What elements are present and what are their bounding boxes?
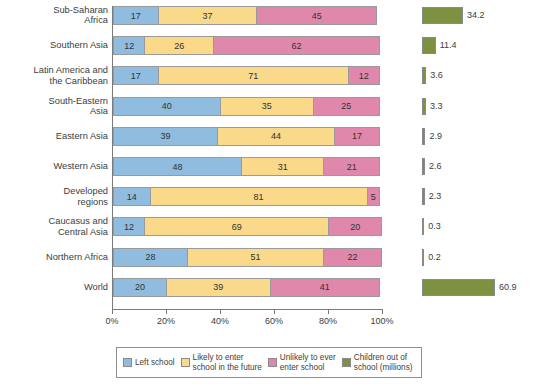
x-axis-tick-label: 0% bbox=[105, 316, 118, 326]
stacked-bar: 394417 bbox=[113, 127, 382, 146]
children-out-of-school-value: 34.2 bbox=[467, 10, 485, 20]
x-axis-tick-label: 20% bbox=[157, 316, 175, 326]
legend-swatch-unlikely-to-enter bbox=[268, 358, 277, 367]
x-axis-tick bbox=[274, 310, 275, 314]
children-out-of-school-value: 2.6 bbox=[429, 161, 442, 171]
stacked-bar: 483121 bbox=[113, 157, 382, 176]
stacked-bar: 122662 bbox=[113, 36, 382, 55]
category-label: Caucasus and Central Asia bbox=[0, 216, 108, 237]
bar-segment-value: 20 bbox=[350, 222, 360, 232]
children-out-of-school-value: 3.3 bbox=[430, 101, 443, 111]
bar-segment: 51 bbox=[187, 248, 324, 267]
category-label: South-Eastern Asia bbox=[0, 96, 108, 117]
category-label: Latin America and the Caribbean bbox=[0, 65, 108, 86]
bar-segment-value: 40 bbox=[162, 101, 172, 111]
bar-segment: 12 bbox=[348, 66, 380, 85]
x-axis-tick bbox=[382, 310, 383, 314]
stacked-bar: 177112 bbox=[113, 66, 382, 85]
chart-row: Latin America and the Caribbean1771123.6 bbox=[0, 66, 538, 85]
category-label: Western Asia bbox=[0, 161, 108, 171]
bar-segment: 5 bbox=[367, 187, 380, 206]
bar-segment: 71 bbox=[158, 66, 349, 85]
bar-segment: 41 bbox=[270, 278, 380, 297]
children-out-of-school-bar bbox=[422, 67, 426, 84]
bar-segment-value: 12 bbox=[124, 41, 134, 51]
legend-item: Left school bbox=[123, 358, 175, 367]
x-axis-tick bbox=[166, 310, 167, 314]
children-out-of-school-bar bbox=[422, 218, 424, 235]
bar-segment: 35 bbox=[220, 97, 314, 116]
x-axis-tick-label: 40% bbox=[211, 316, 229, 326]
bar-segment-value: 14 bbox=[127, 192, 137, 202]
children-out-of-school-bar bbox=[422, 37, 436, 54]
category-label: Northern Africa bbox=[0, 252, 108, 262]
chart-row: Sub-Saharan Africa17374534.2 bbox=[0, 6, 538, 25]
category-label: Developed regions bbox=[0, 186, 108, 207]
stacked-bar: 403525 bbox=[113, 97, 382, 116]
bar-segment-value: 45 bbox=[312, 11, 322, 21]
legend-swatch-likely-to-enter bbox=[181, 358, 190, 367]
bar-segment-value: 25 bbox=[341, 101, 351, 111]
stacked-bar: 203941 bbox=[113, 278, 382, 297]
bar-segment-value: 31 bbox=[278, 162, 288, 172]
bar-segment-value: 28 bbox=[146, 252, 156, 262]
x-axis-tick-label: 60% bbox=[265, 316, 283, 326]
bar-segment: 12 bbox=[113, 36, 145, 55]
bar-segment-value: 21 bbox=[347, 162, 357, 172]
children-out-of-school-bar bbox=[422, 279, 495, 296]
bar-segment-value: 35 bbox=[262, 101, 272, 111]
chart-row: Eastern Asia3944172.9 bbox=[0, 127, 538, 146]
category-label: Southern Asia bbox=[0, 40, 108, 50]
children-out-of-school-bar bbox=[422, 128, 425, 145]
legend-swatch-children-out-of-school bbox=[342, 358, 351, 367]
category-label: Sub-Saharan Africa bbox=[0, 5, 108, 26]
children-out-of-school-bar bbox=[422, 7, 463, 24]
bar-segment: 17 bbox=[113, 6, 159, 25]
bar-segment: 20 bbox=[328, 217, 382, 236]
stacked-bar-chart: Sub-Saharan Africa17374534.2Southern Asi… bbox=[0, 0, 538, 389]
bar-segment: 37 bbox=[158, 6, 258, 25]
bar-segment-value: 41 bbox=[320, 282, 330, 292]
bar-segment: 28 bbox=[113, 248, 188, 267]
bar-segment: 40 bbox=[113, 97, 221, 116]
bar-segment: 45 bbox=[256, 6, 377, 25]
bar-segment-value: 39 bbox=[160, 131, 170, 141]
bar-segment: 39 bbox=[113, 127, 218, 146]
chart-row: South-Eastern Asia4035253.3 bbox=[0, 97, 538, 116]
x-axis-tick-label: 100% bbox=[370, 316, 393, 326]
bar-segment: 81 bbox=[150, 187, 368, 206]
bar-segment-value: 51 bbox=[251, 252, 261, 262]
bar-segment-value: 37 bbox=[202, 11, 212, 21]
children-out-of-school-bar bbox=[422, 188, 425, 205]
stacked-bar: 126920 bbox=[113, 217, 382, 236]
bar-segment: 22 bbox=[323, 248, 382, 267]
bar-segment: 17 bbox=[334, 127, 380, 146]
legend-label: Left school bbox=[135, 358, 175, 367]
bar-segment-value: 39 bbox=[213, 282, 223, 292]
x-axis-tick-label: 80% bbox=[319, 316, 337, 326]
children-out-of-school-value: 11.4 bbox=[440, 40, 457, 50]
bar-segment: 25 bbox=[313, 97, 380, 116]
x-axis-tick bbox=[328, 310, 329, 314]
chart-row: Western Asia4831212.6 bbox=[0, 157, 538, 176]
x-axis-tick bbox=[220, 310, 221, 314]
bar-segment-value: 44 bbox=[271, 131, 281, 141]
children-out-of-school-value: 3.6 bbox=[430, 70, 443, 80]
x-axis-tick bbox=[112, 310, 113, 314]
legend-swatch-left-school bbox=[123, 358, 132, 367]
children-out-of-school-value: 2.9 bbox=[429, 131, 442, 141]
children-out-of-school-value: 60.9 bbox=[499, 282, 517, 292]
bar-segment-value: 17 bbox=[131, 11, 141, 21]
bar-segment-value: 20 bbox=[135, 282, 145, 292]
bar-segment-value: 22 bbox=[347, 252, 357, 262]
bar-segment: 12 bbox=[113, 217, 145, 236]
bar-segment: 44 bbox=[217, 127, 335, 146]
bar-segment-value: 71 bbox=[248, 71, 258, 81]
legend-label: Children out of school (millions) bbox=[354, 353, 413, 372]
children-out-of-school-bar bbox=[422, 249, 424, 266]
bar-segment-value: 81 bbox=[254, 192, 264, 202]
bar-segment-value: 12 bbox=[359, 71, 369, 81]
chart-row: Northern Africa2851220.2 bbox=[0, 248, 538, 267]
bar-segment: 31 bbox=[241, 157, 324, 176]
bar-segment: 21 bbox=[323, 157, 379, 176]
